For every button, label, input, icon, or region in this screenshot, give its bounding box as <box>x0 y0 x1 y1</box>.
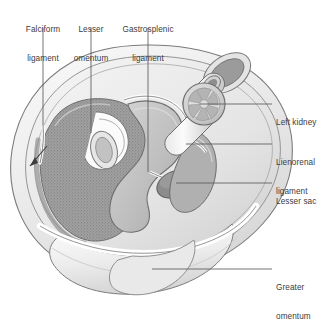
label-lesser-omentum: Lesser omentum <box>63 6 119 73</box>
label-lienorenal-ligament-line1: Lienorenal <box>276 158 315 168</box>
label-greater-omentum-line1: Greater <box>276 283 311 293</box>
label-lesser-omentum-line2: omentum <box>63 54 119 64</box>
label-greater-omentum: Greater omentum <box>276 264 311 323</box>
label-gastrosplenic-ligament-line2: ligament <box>113 54 183 64</box>
label-left-kidney: Left kidney <box>276 99 317 137</box>
label-gastrosplenic-ligament: Gastrosplenic ligament <box>113 6 183 73</box>
label-left-kidney-line1: Left kidney <box>276 118 317 128</box>
label-gastrosplenic-ligament-line1: Gastrosplenic <box>113 25 183 35</box>
label-greater-omentum-line2: omentum <box>276 312 311 322</box>
label-lesser-sac-line1: Lesser sac <box>276 197 316 207</box>
label-lesser-omentum-line1: Lesser <box>63 25 119 35</box>
label-lesser-sac: Lesser sac <box>276 178 316 216</box>
